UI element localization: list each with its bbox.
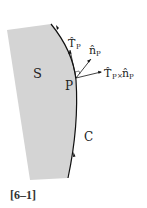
cross-label: T̂ P × n̂ P bbox=[104, 67, 134, 81]
normal-label: n̂ P bbox=[89, 44, 101, 58]
point-label: P bbox=[65, 79, 73, 93]
curve-arrow-bottom-icon bbox=[73, 152, 76, 157]
svg-text:P: P bbox=[129, 73, 134, 81]
svg-text:P: P bbox=[96, 50, 101, 58]
curve-label: C bbox=[84, 130, 93, 144]
svg-text:T̂: T̂ bbox=[104, 67, 112, 80]
figure-label: [6–1] bbox=[10, 188, 36, 203]
svg-text:T̂: T̂ bbox=[68, 37, 76, 50]
surface-label: S bbox=[33, 66, 42, 81]
curve-arrow-top-icon bbox=[56, 25, 59, 30]
tangent-label: T̂ P bbox=[68, 37, 81, 51]
diagram-canvas: S P C T̂ P n̂ P T̂ P × n̂ P bbox=[0, 0, 147, 208]
normal-arrow-icon bbox=[87, 59, 91, 63]
svg-text:P: P bbox=[76, 43, 81, 51]
cross-arrow-icon bbox=[98, 71, 102, 74]
